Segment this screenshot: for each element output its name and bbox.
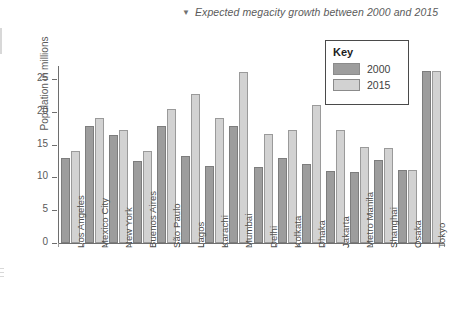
bar-group — [302, 66, 322, 243]
x-axis-label: Metro Manila — [364, 192, 375, 248]
bar-group — [254, 66, 274, 243]
y-axis-tick-label: 5 — [26, 203, 48, 214]
y-axis-tick-mark — [52, 145, 57, 146]
y-axis-tick-mark — [52, 210, 57, 211]
x-axis-label: Osaka — [412, 220, 423, 248]
x-axis-label: Karachi — [219, 215, 230, 248]
x-axis-label: Mexico City — [99, 198, 110, 248]
page-edge-mark — [0, 272, 4, 273]
legend-label: 2000 — [367, 63, 390, 75]
triangle-down-icon: ▼ — [182, 9, 190, 17]
bar-2000 — [374, 160, 383, 243]
chart-caption-text: Expected megacity growth between 2000 an… — [195, 6, 438, 18]
bar-2000 — [350, 172, 359, 243]
x-axis-label: São Paulo — [171, 203, 182, 248]
chart-caption: ▼ Expected megacity growth between 2000 … — [182, 6, 444, 18]
x-axis-tick — [58, 243, 59, 247]
chart-legend: Key 20002015 — [325, 40, 409, 105]
legend-swatch — [333, 63, 360, 75]
page-edge-mark — [0, 28, 2, 54]
y-axis-tick-label: 10 — [26, 170, 48, 181]
bar-2000 — [205, 166, 214, 243]
bar-2000 — [302, 164, 311, 243]
bar-2000 — [422, 71, 431, 243]
x-axis-label: Kolkata — [292, 216, 303, 248]
bar-2015 — [432, 71, 441, 243]
x-axis-label: Lagos — [195, 222, 206, 248]
legend-entries: 20002015 — [333, 63, 401, 91]
x-axis-label: Tokyo — [436, 223, 447, 248]
y-axis-tick-mark — [52, 79, 57, 80]
x-axis-label: Delhi — [268, 226, 279, 248]
bar-2000 — [133, 161, 142, 243]
x-axis-label: Los Angeles — [75, 195, 86, 248]
y-axis-tick-mark — [52, 112, 57, 113]
bar-2000 — [157, 126, 166, 243]
page-edge-mark — [0, 276, 4, 277]
bar-2000 — [254, 167, 263, 243]
bar-group — [422, 66, 442, 243]
x-axis-label: Shanghai — [388, 207, 399, 248]
bar-2000 — [181, 156, 190, 243]
y-axis-tick-mark — [52, 243, 57, 244]
legend-entry: 2000 — [333, 63, 401, 75]
y-axis-tick-label: 0 — [26, 236, 48, 247]
y-axis-tick-mark — [52, 177, 57, 178]
x-axis-label: Buenos Aires — [147, 191, 158, 248]
x-axis-label: Jakarta — [340, 216, 351, 248]
x-axis-label: New York — [123, 207, 134, 248]
y-axis-label: Population in millions — [39, 4, 50, 164]
bar-2015 — [191, 94, 200, 243]
bar-2000 — [326, 171, 335, 243]
legend-label: 2015 — [367, 79, 390, 91]
bar-2000 — [109, 135, 118, 243]
x-axis-label: Dhaka — [316, 220, 327, 248]
x-axis-label: Mumbai — [243, 214, 254, 248]
bar-2000 — [61, 158, 70, 243]
bar-group — [181, 66, 201, 243]
legend-swatch — [333, 79, 360, 91]
bar-2000 — [398, 170, 407, 243]
legend-title: Key — [333, 46, 401, 58]
bar-2000 — [229, 126, 238, 243]
page-edge-mark — [0, 268, 4, 269]
legend-entry: 2015 — [333, 79, 401, 91]
